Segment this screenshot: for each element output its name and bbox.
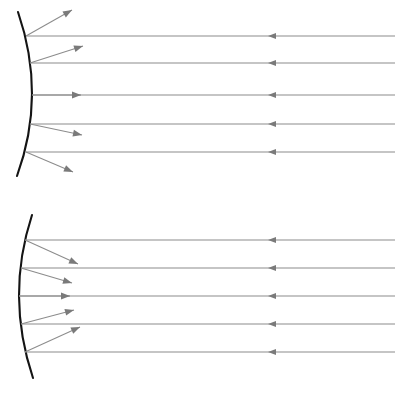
convex-mirror xyxy=(17,12,32,176)
ray-arrowhead xyxy=(72,92,81,99)
ray-arrowhead xyxy=(68,257,78,264)
ray-arrowhead xyxy=(268,293,276,299)
ray-arrowhead xyxy=(268,33,276,39)
ray-arrowhead xyxy=(268,237,276,243)
convex-mirror-panel xyxy=(17,10,395,176)
reflected-ray xyxy=(25,327,80,352)
ray-arrowhead xyxy=(62,277,72,284)
diagram-canvas xyxy=(0,0,416,399)
ray-arrowhead xyxy=(268,349,276,355)
ray-arrowhead xyxy=(62,10,72,17)
ray-arrowhead xyxy=(268,321,276,327)
ray-arrowhead xyxy=(73,45,83,52)
ray-arrowhead xyxy=(61,293,70,300)
ray-arrowhead xyxy=(268,121,276,127)
ray-arrowhead xyxy=(268,149,276,155)
ray-arrowhead xyxy=(268,92,276,98)
ray-arrowhead xyxy=(64,309,74,316)
ray-arrowhead xyxy=(63,165,73,172)
ray-arrowhead xyxy=(70,327,80,334)
ray-arrowhead xyxy=(268,60,276,66)
concave-mirror-panel xyxy=(19,215,395,378)
ray-arrowhead xyxy=(72,130,82,137)
optics-ray-diagram xyxy=(0,0,416,399)
ray-arrowhead xyxy=(268,265,276,271)
